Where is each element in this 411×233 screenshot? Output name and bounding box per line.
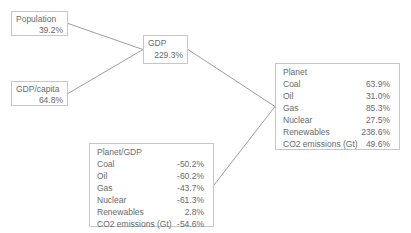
row-value: -43.7% [177, 182, 204, 194]
row-label: Oil [97, 170, 107, 182]
table-row: Gas 85.3% [283, 102, 390, 114]
row-label: Renewables [283, 126, 330, 138]
table-row: Gas -43.7% [97, 182, 204, 194]
node-planet-title: Planet [283, 66, 390, 78]
node-planet-gdp-title: Planet/GDP [97, 146, 204, 158]
row-value: 85.3% [366, 102, 390, 114]
row-value: 31.0% [366, 90, 390, 102]
row-value: -60.2% [177, 170, 204, 182]
table-row: Coal 63.9% [283, 78, 390, 90]
node-gdp-capita-label: GDP/capita [16, 84, 63, 95]
row-value: -61.3% [177, 194, 204, 206]
row-label: Coal [283, 78, 300, 90]
node-gdp-capita-value: 64.8% [16, 95, 63, 106]
node-gdp-capita: GDP/capita 64.8% [11, 81, 68, 106]
row-label: Coal [97, 158, 114, 170]
row-value: 27.5% [366, 114, 390, 126]
table-row: Coal -50.2% [97, 158, 204, 170]
table-row: Nuclear -61.3% [97, 194, 204, 206]
row-value: 63.9% [366, 78, 390, 90]
node-gdp-label: GDP [148, 38, 183, 49]
row-value: 238.6% [361, 126, 390, 138]
table-row: Oil 31.0% [283, 90, 390, 102]
edge-gdp-planet [188, 50, 275, 107]
row-value: -50.2% [177, 158, 204, 170]
row-value: -54.6% [177, 218, 204, 230]
table-row: Renewables 2.8% [97, 206, 204, 218]
node-population: Population 39.2% [11, 11, 68, 36]
node-population-value: 39.2% [16, 25, 63, 36]
table-row: Renewables 238.6% [283, 126, 390, 138]
edge-population-gdp [68, 24, 143, 50]
table-row: CO2 emissions (Gt) -54.6% [97, 218, 204, 230]
row-label: CO2 emissions (Gt) [97, 218, 172, 230]
row-label: CO2 emissions (Gt) [283, 138, 358, 150]
row-label: Nuclear [97, 194, 126, 206]
node-planet: Planet Coal 63.9% Oil 31.0% Gas 85.3% Nu… [275, 63, 400, 150]
table-row: Nuclear 27.5% [283, 114, 390, 126]
node-gdp-value: 229.3% [148, 50, 183, 61]
row-label: Gas [97, 182, 113, 194]
node-gdp: GDP 229.3% [143, 35, 188, 64]
row-value: 49.6% [366, 138, 390, 150]
table-row: CO2 emissions (Gt) 49.6% [283, 138, 390, 150]
row-value: 2.8% [185, 206, 204, 218]
row-label: Oil [283, 90, 293, 102]
row-label: Gas [283, 102, 299, 114]
row-label: Nuclear [283, 114, 312, 126]
row-label: Renewables [97, 206, 144, 218]
table-row: Oil -60.2% [97, 170, 204, 182]
edge-planetgdp-planet [214, 107, 275, 186]
node-population-label: Population [16, 14, 63, 25]
decomposition-diagram: Population 39.2% GDP/capita 64.8% GDP 22… [0, 0, 411, 233]
edge-gdpcapita-gdp [68, 50, 143, 94]
node-planet-gdp: Planet/GDP Coal -50.2% Oil -60.2% Gas -4… [89, 143, 214, 227]
